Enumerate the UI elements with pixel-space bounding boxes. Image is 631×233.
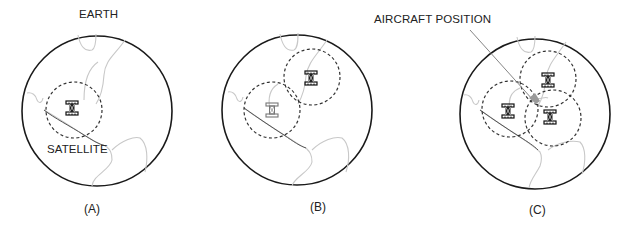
aircraft-position-label: AIRCRAFT POSITION <box>374 13 491 25</box>
panel-b <box>222 33 372 186</box>
earth-label: EARTH <box>79 8 118 20</box>
satellite-icon <box>66 101 78 115</box>
satellite-icon-2 <box>542 73 554 87</box>
gps-trilateration-diagram <box>0 0 631 233</box>
panel-c <box>460 30 610 189</box>
satellite-icon-1 <box>502 104 514 118</box>
earth-circle <box>222 35 372 185</box>
satellite-label: SATELLITE <box>47 143 108 155</box>
panel-a <box>22 34 172 186</box>
caption-b: (B) <box>310 200 326 214</box>
caption-a: (A) <box>84 202 100 216</box>
satellite-icon-3 <box>544 110 556 124</box>
caption-c: (C) <box>529 203 546 217</box>
satellite-icon-previous <box>266 103 278 117</box>
